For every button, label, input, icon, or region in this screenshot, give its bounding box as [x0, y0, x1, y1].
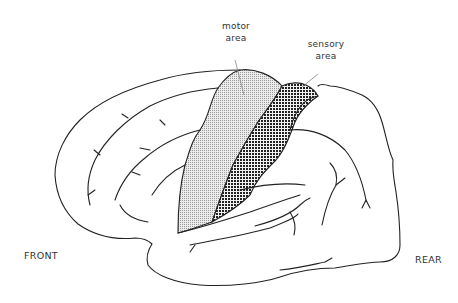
brain-diagram — [0, 0, 458, 303]
sensory-label-line2: area — [298, 50, 354, 62]
motor-label-line1: motor — [208, 20, 264, 32]
sensory-leader-line — [302, 74, 318, 87]
sensory-label-line1: sensory — [298, 38, 354, 50]
front-label: FRONT — [24, 250, 58, 261]
rear-label: REAR — [415, 254, 442, 265]
motor-label-line2: area — [208, 32, 264, 44]
motor-area-label: motor area — [208, 20, 264, 44]
sensory-area-label: sensory area — [298, 38, 354, 62]
